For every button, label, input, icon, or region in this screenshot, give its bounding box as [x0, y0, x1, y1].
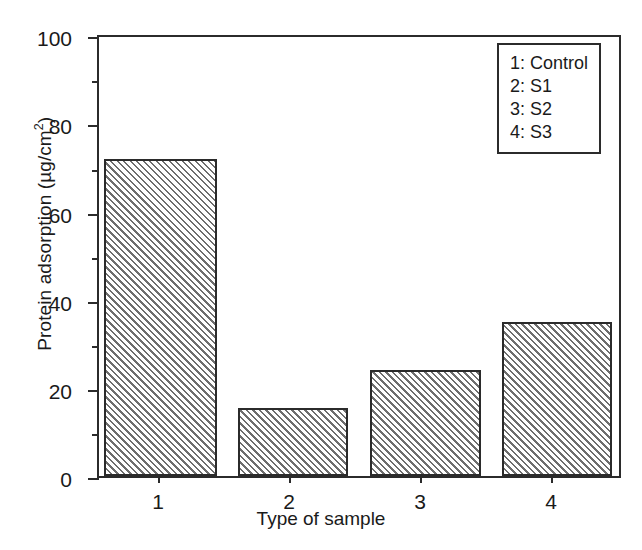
y-tick-minor-70 — [92, 170, 99, 172]
y-tick-label-40: 40 — [49, 292, 72, 316]
y-tick-minor-30 — [92, 346, 99, 348]
y-tick-major-100: 100 — [88, 37, 99, 39]
legend-entry-1: 1: Control — [510, 52, 588, 75]
y-tick-major-60: 60 — [88, 214, 99, 216]
x-tick-label-1: 1 — [152, 490, 164, 514]
legend-entry-2: 2: S1 — [510, 75, 588, 98]
y-tick-major-20: 20 — [88, 390, 99, 392]
y-axis-title-superscript: 2 — [32, 123, 46, 130]
x-tick-label-4: 4 — [545, 490, 557, 514]
y-tick-label-80: 80 — [49, 115, 72, 139]
x-tick-label-2: 2 — [283, 490, 295, 514]
y-tick-label-0: 0 — [60, 468, 72, 492]
y-tick-label-100: 100 — [37, 27, 72, 51]
y-tick-major-0: 0 — [88, 478, 99, 480]
bar-1 — [104, 159, 217, 476]
y-tick-major-80: 80 — [88, 125, 99, 127]
y-tick-minor-90 — [92, 81, 99, 83]
chart-figure: Protein adsorption (µg/cm2) Type of samp… — [0, 0, 642, 550]
y-tick-minor-50 — [92, 258, 99, 260]
legend-entry-4: 4: S3 — [510, 121, 588, 144]
y-tick-label-60: 60 — [49, 204, 72, 228]
y-axis-title-main: Protein adsorption (µg/cm — [34, 130, 55, 350]
legend-entry-3: 3: S2 — [510, 98, 588, 121]
y-tick-minor-10 — [92, 434, 99, 436]
bar-3 — [370, 370, 481, 476]
x-tick-label-3: 3 — [414, 490, 426, 514]
y-tick-major-40: 40 — [88, 302, 99, 304]
y-tick-label-20: 20 — [49, 380, 72, 404]
plot-area: 0 20 40 60 80 100 1 2 3 4 — [97, 35, 621, 478]
bar-2 — [238, 408, 348, 476]
legend-box: 1: Control 2: S1 3: S2 4: S3 — [497, 43, 601, 154]
bar-4 — [502, 322, 612, 476]
